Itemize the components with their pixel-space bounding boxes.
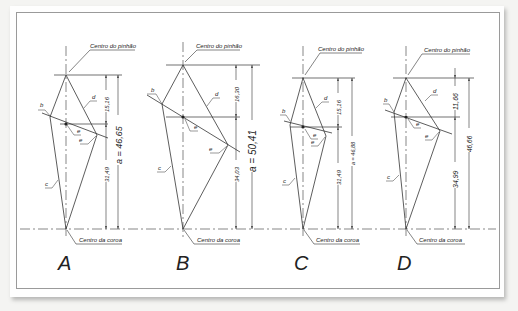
gear-geometry-drawing: Centro do pinhão b d e e c Centro da cor… (0, 0, 518, 311)
svg-text:b: b (282, 108, 286, 114)
svg-text:d: d (433, 88, 437, 94)
svg-text:e: e (425, 133, 429, 139)
svg-text:C: C (294, 252, 309, 274)
svg-text:34,99: 34,99 (452, 170, 459, 188)
svg-text:d: d (215, 91, 219, 97)
diagram-a: Centro do pinhão b d e e c Centro da cor… (38, 43, 137, 274)
svg-text:Centro do pinhão: Centro do pinhão (424, 47, 471, 53)
svg-text:c: c (283, 178, 286, 184)
svg-text:c: c (387, 174, 390, 180)
svg-text:Centro do pinhão: Centro do pinhão (318, 46, 365, 52)
dim-upper: 15,16 (104, 96, 110, 112)
svg-text:46,66: 46,66 (466, 135, 473, 152)
svg-text:d: d (324, 95, 328, 101)
svg-text:16,30: 16,30 (234, 86, 240, 102)
svg-text:c: c (45, 181, 48, 187)
svg-text:b: b (384, 97, 388, 103)
svg-text:c: c (158, 165, 161, 171)
pinion-center-label: Centro do pinhão (90, 43, 137, 49)
svg-text:e: e (194, 124, 198, 130)
diagram-d: Centro do pinhão b d e e c Centro da cor… (383, 46, 474, 274)
crown-center-label: Centro da coroa (79, 237, 123, 243)
svg-text:b: b (151, 87, 155, 93)
svg-text:e: e (311, 139, 315, 145)
svg-text:e: e (209, 146, 213, 152)
svg-text:Centro da coroa: Centro da coroa (316, 237, 360, 243)
svg-text:D: D (397, 252, 411, 274)
svg-text:d: d (92, 94, 96, 100)
diagram-label: A (57, 252, 71, 274)
svg-text:15,16: 15,16 (336, 99, 342, 115)
diagram-b: Centro do pinhão b d e e c Centro da cor… (147, 42, 260, 274)
svg-text:B: B (176, 252, 189, 274)
svg-text:31,49: 31,49 (336, 169, 342, 185)
svg-text:Centro da coroa: Centro da coroa (419, 237, 463, 243)
dim-lower: 31,49 (104, 166, 110, 182)
svg-text:e: e (77, 128, 81, 134)
svg-text:a = 46,88: a = 46,88 (350, 141, 356, 165)
svg-text:e: e (313, 132, 317, 138)
diagram-c: Centro do pinhão b d e e c Centro da cor… (280, 46, 365, 274)
svg-text:b: b (40, 102, 44, 108)
svg-text:a = 50,41: a = 50,41 (247, 130, 258, 172)
svg-text:11,66: 11,66 (452, 93, 459, 110)
dim-total: a = 46,65 (114, 125, 124, 164)
svg-text:Centro do pinhão: Centro do pinhão (196, 43, 243, 49)
svg-text:Centro da coroa: Centro da coroa (197, 237, 241, 243)
svg-text:e: e (79, 137, 83, 143)
svg-text:34,03: 34,03 (234, 166, 240, 182)
